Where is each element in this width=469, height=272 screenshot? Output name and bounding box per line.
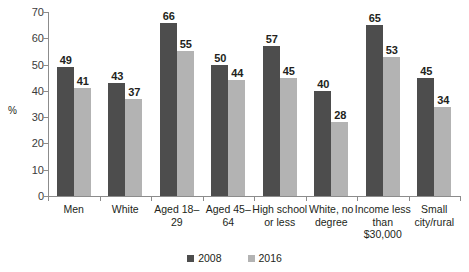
legend-label: 2016 xyxy=(259,252,282,264)
y-axis-tick-label: 20 xyxy=(0,137,44,149)
x-axis-tick-mark xyxy=(100,196,101,201)
legend-item: 2016 xyxy=(248,252,282,264)
bar-value-label: 49 xyxy=(49,54,83,66)
legend-label: 2008 xyxy=(198,252,221,264)
x-axis-tick-mark xyxy=(306,196,307,201)
y-axis-tick-label: 30 xyxy=(0,111,44,123)
x-axis-tick-mark xyxy=(203,196,204,201)
bar-group: 4941 xyxy=(57,12,91,196)
x-axis-category-label: Smallcity/rural xyxy=(403,203,465,228)
bar-value-label: 66 xyxy=(152,10,186,22)
bar-group: 4337 xyxy=(108,12,142,196)
bar-value-label: 50 xyxy=(203,52,237,64)
x-axis-tick-mark xyxy=(460,196,461,201)
x-axis-tick-mark xyxy=(254,196,255,201)
bar-group: 5745 xyxy=(263,12,297,196)
legend-item: 2008 xyxy=(187,252,221,264)
bar-value-label: 65 xyxy=(358,12,392,24)
y-axis-tick-label: 50 xyxy=(0,59,44,71)
bar-group: 6655 xyxy=(160,12,194,196)
bar-value-label: 55 xyxy=(169,38,203,50)
bar: 40 xyxy=(314,91,331,196)
bar-value-label: 53 xyxy=(375,44,409,56)
bar-value-label: 45 xyxy=(409,65,443,77)
plot-area: 49414337665550445745402865534534 xyxy=(48,12,460,196)
x-axis-tick-mark xyxy=(357,196,358,201)
bar: 44 xyxy=(228,80,245,196)
legend-swatch-icon xyxy=(187,255,194,262)
y-axis-tick-label: 60 xyxy=(0,32,44,44)
bar-value-label: 44 xyxy=(220,67,254,79)
bar-group: 4534 xyxy=(417,12,451,196)
bar-group: 6553 xyxy=(366,12,400,196)
chart-legend: 20082016 xyxy=(0,252,469,264)
bar-value-label: 40 xyxy=(306,78,340,90)
bar: 53 xyxy=(383,57,400,196)
bar-value-label: 41 xyxy=(66,75,100,87)
y-axis-tick-label: 0 xyxy=(0,190,44,202)
x-axis-tick-mark xyxy=(409,196,410,201)
bar-value-label: 57 xyxy=(255,33,289,45)
bar: 45 xyxy=(280,78,297,196)
bar-value-label: 45 xyxy=(272,65,306,77)
x-axis-tick-mark xyxy=(48,196,49,201)
bar-value-label: 37 xyxy=(117,86,151,98)
bar-value-label: 28 xyxy=(323,109,357,121)
bar: 37 xyxy=(125,99,142,196)
bar: 43 xyxy=(108,83,125,196)
y-axis-tick-label: 10 xyxy=(0,164,44,176)
bar-value-label: 43 xyxy=(100,70,134,82)
bar: 50 xyxy=(211,65,228,196)
x-axis-tick-mark xyxy=(151,196,152,201)
bar: 41 xyxy=(74,88,91,196)
bar-group: 5044 xyxy=(211,12,245,196)
bar: 55 xyxy=(177,51,194,196)
y-axis-tick-label: 70 xyxy=(0,6,44,18)
bar-group: 4028 xyxy=(314,12,348,196)
bar: 28 xyxy=(331,122,348,196)
legend-swatch-icon xyxy=(248,255,255,262)
bar-value-label: 34 xyxy=(426,94,460,106)
bar-chart: % 010203040506070 4941433766555044574540… xyxy=(0,0,469,272)
bar: 34 xyxy=(434,107,451,196)
y-axis-tick-label: 40 xyxy=(0,85,44,97)
